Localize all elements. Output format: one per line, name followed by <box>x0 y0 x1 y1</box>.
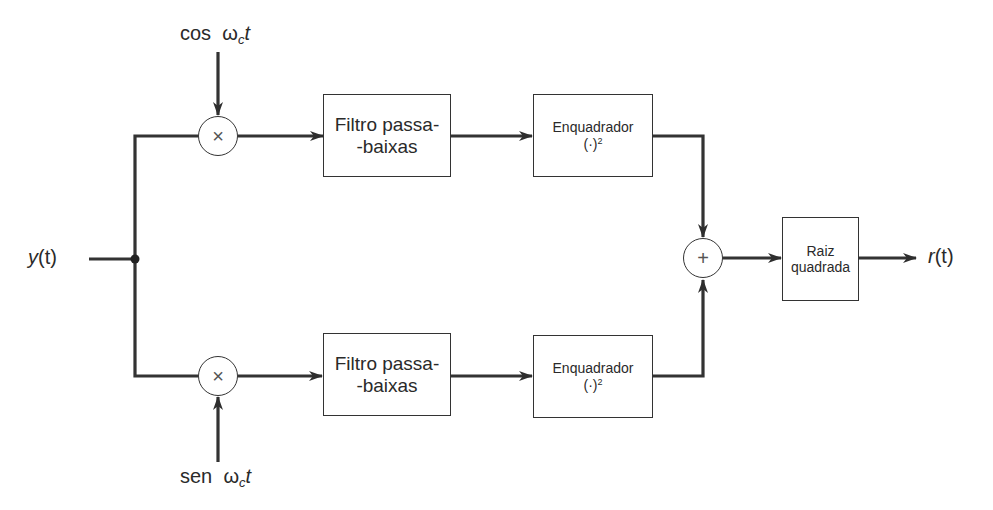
plus-icon: + <box>697 248 709 268</box>
squarer-bottom: Enquadrador (·)2 <box>533 335 653 418</box>
multiply-icon: × <box>212 366 224 386</box>
adder: + <box>683 238 723 278</box>
block-label-line1: Enquadrador <box>553 360 634 376</box>
cos-carrier-label: cos ωct <box>180 22 250 47</box>
squarer-top-to-adder-arrow <box>653 136 703 237</box>
junction-dot <box>131 255 140 264</box>
sen-carrier-label: sen ωct <box>180 465 251 490</box>
block-label-line2: quadrada <box>791 259 850 275</box>
multiplier-bottom: × <box>198 356 238 396</box>
lowpass-filter-bottom: Filtro passa- -baixas <box>323 333 451 416</box>
square-root-block: Raiz quadrada <box>782 217 859 301</box>
input-signal-label: y(t) <box>28 246 57 269</box>
block-label-line1: Raiz <box>806 243 834 259</box>
block-label-line2: -baixas <box>356 136 417 158</box>
lowpass-filter-top: Filtro passa- -baixas <box>323 94 451 177</box>
multiply-icon: × <box>212 126 224 146</box>
squarer-bottom-to-adder-arrow <box>653 280 703 376</box>
output-signal-label: r(t) <box>928 245 954 268</box>
block-label-line1: Filtro passa- <box>335 353 440 375</box>
split-wire <box>135 136 198 376</box>
block-label-line1: Filtro passa- <box>335 114 440 136</box>
multiplier-top: × <box>198 116 238 156</box>
square-operator-label: (·)2 <box>583 136 602 152</box>
squarer-top: Enquadrador (·)2 <box>533 94 653 177</box>
block-label-line2: -baixas <box>356 375 417 397</box>
square-operator-label: (·)2 <box>583 377 602 393</box>
block-label-line1: Enquadrador <box>553 119 634 135</box>
